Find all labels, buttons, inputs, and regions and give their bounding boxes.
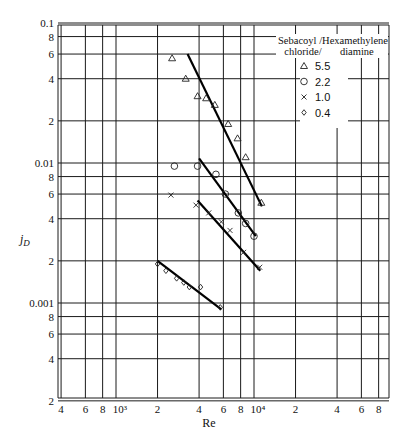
x-axis-ticks: 46810³246810⁴2468 — [58, 403, 382, 415]
svg-text:4: 4 — [49, 353, 55, 365]
svg-text:0.4: 0.4 — [315, 107, 330, 119]
svg-text:5.5: 5.5 — [315, 60, 330, 72]
chart: 0.186420.0186420.0018642 46810³246810⁴24… — [0, 0, 410, 437]
fit-line-0.4 — [158, 261, 222, 310]
svg-text:2.2: 2.2 — [315, 76, 330, 88]
svg-text:0.01: 0.01 — [35, 157, 54, 169]
svg-text:8: 8 — [376, 403, 382, 415]
svg-text:6: 6 — [83, 403, 89, 415]
y-axis-label: jD — [18, 232, 30, 248]
svg-text:8: 8 — [49, 311, 55, 323]
svg-text:10³: 10³ — [113, 403, 128, 415]
svg-text:6: 6 — [221, 403, 227, 415]
svg-text:2: 2 — [155, 403, 161, 415]
svg-text:10⁴: 10⁴ — [251, 403, 266, 415]
svg-text:8: 8 — [49, 171, 55, 183]
svg-text:2: 2 — [49, 255, 55, 267]
svg-text:1.0: 1.0 — [315, 91, 330, 103]
svg-text:4: 4 — [58, 403, 64, 415]
svg-text:2: 2 — [49, 115, 55, 127]
svg-text:8: 8 — [238, 403, 244, 415]
svg-text:2: 2 — [49, 395, 55, 407]
svg-text:6: 6 — [49, 328, 55, 340]
svg-text:2: 2 — [293, 403, 299, 415]
svg-text:4: 4 — [49, 213, 55, 225]
svg-text:4: 4 — [49, 73, 55, 85]
svg-text:8: 8 — [49, 31, 55, 43]
svg-text:8: 8 — [100, 403, 106, 415]
svg-text:6: 6 — [359, 403, 365, 415]
svg-text:6: 6 — [49, 48, 55, 60]
svg-text:6: 6 — [49, 188, 55, 200]
fit-lines — [158, 54, 262, 309]
svg-text:0.1: 0.1 — [40, 17, 54, 29]
legend-title-line2: chloride/ diamine — [284, 46, 374, 57]
svg-text:4: 4 — [196, 403, 202, 415]
x-axis-label: Re — [202, 416, 215, 430]
legend-title-line1: Sebacoyl /Hexamethylene — [278, 35, 388, 46]
svg-text:4: 4 — [334, 403, 340, 415]
y-axis-ticks: 0.186420.0186420.0018642 — [29, 17, 54, 407]
svg-text:0.001: 0.001 — [29, 297, 54, 309]
fit-line-2.2 — [199, 158, 256, 236]
